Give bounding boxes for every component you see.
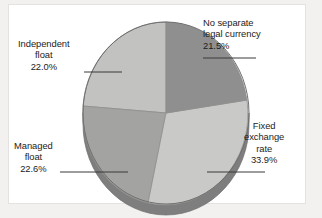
slice-label-no-separate-legal-currency: No separate legal currency 21.5%: [203, 17, 261, 51]
pie-chart-canvas: [0, 0, 322, 218]
slice-label-line-1: No separate: [203, 17, 261, 28]
slice-percent-managed-float: 22.6%: [14, 163, 53, 174]
slice-label-line-2: exchange: [244, 131, 284, 142]
pie-chart-figure: No separate legal currency 21.5% Fixed e…: [0, 0, 322, 218]
slice-label-fixed-exchange-rate: Fixed exchange rate 33.9%: [244, 120, 284, 166]
slice-label-line-1: Independent: [18, 38, 70, 49]
slice-label-line-1: Fixed: [244, 120, 284, 131]
slice-percent-independent-float: 22.0%: [18, 61, 70, 72]
slice-label-line-2: float: [14, 151, 53, 162]
slice-percent-no-separate-legal-currency: 21.5%: [203, 40, 261, 51]
slice-label-independent-float: Independent float 22.0%: [18, 38, 70, 72]
slice-label-line-1: Managed: [14, 140, 53, 151]
slice-percent-fixed-exchange-rate: 33.9%: [244, 154, 284, 165]
pie-slice-independent-float[interactable]: [83, 22, 166, 113]
slice-label-managed-float: Managed float 22.6%: [14, 140, 53, 174]
slice-label-line-2: legal currency: [203, 28, 261, 39]
slice-label-line-2: float: [18, 49, 70, 60]
slice-label-line-3: rate: [244, 143, 284, 154]
